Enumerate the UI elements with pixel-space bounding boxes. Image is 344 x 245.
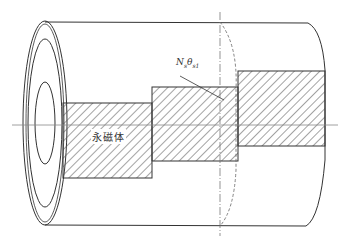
inner-ellipse: [35, 82, 55, 164]
diagram-canvas: Nsθs1 永磁体: [0, 0, 344, 245]
cylinder-diagram: [0, 0, 344, 245]
outer-ellipse: [23, 21, 67, 225]
middle-ellipse: [28, 39, 62, 207]
magnet-segment-2: [152, 87, 238, 161]
magnet-label: 永磁体: [91, 129, 126, 144]
winding-symbol: N: [176, 57, 184, 67]
outer-ellipse-inner: [26, 24, 64, 222]
angle-subscript: s1: [192, 62, 199, 69]
cylinder-top-edge: [45, 22, 308, 23]
cylinder-bottom-edge: [45, 225, 306, 226]
magnet-segment-3: [238, 71, 325, 146]
angle-label: Nsθs1: [176, 57, 199, 69]
